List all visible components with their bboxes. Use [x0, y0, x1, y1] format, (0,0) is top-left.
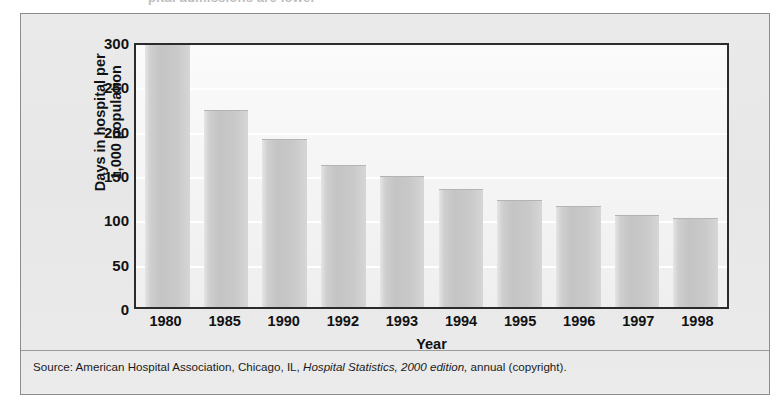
cutoff-title-strip: pital admissions are lower: [0, 0, 782, 12]
source-italic-title: Hospital Statistics,: [303, 360, 398, 373]
bar-slot-1998: [666, 45, 725, 307]
cutoff-title-text: pital admissions are lower: [148, 0, 316, 5]
bar-slot-1994: [432, 45, 491, 307]
bar-slot-1997: [608, 45, 667, 307]
source-divider: [21, 350, 769, 351]
bar-slot-1980: [138, 45, 197, 307]
y-axis-tick-labels: 050100150200250300: [83, 30, 129, 314]
bar-1993: [380, 176, 425, 307]
bar-1995: [497, 200, 542, 307]
plot-area: [134, 43, 729, 309]
bar-slot-1990: [255, 45, 314, 307]
bar-1994: [439, 189, 484, 307]
x-tick-1998: 1998: [668, 313, 727, 329]
bar-slot-1996: [549, 45, 608, 307]
bar-1980: [145, 44, 190, 307]
x-tick-1997: 1997: [609, 313, 668, 329]
x-tick-1992: 1992: [313, 313, 372, 329]
bar-1996: [556, 206, 601, 307]
bar-1998: [673, 218, 718, 307]
y-tick-50: 50: [112, 256, 129, 273]
bar-1990: [262, 139, 307, 307]
source-suffix: annual (copyright).: [467, 360, 566, 373]
x-tick-1996: 1996: [550, 313, 609, 329]
x-tick-1990: 1990: [254, 313, 313, 329]
source-italic-edition: 2000 edition,: [398, 360, 468, 373]
x-tick-1994: 1994: [431, 313, 490, 329]
x-tick-1995: 1995: [491, 313, 550, 329]
y-tick-100: 100: [104, 212, 129, 229]
x-tick-1985: 1985: [195, 313, 254, 329]
figure-frame: Days in hospital per 1,000 population 05…: [20, 13, 770, 395]
bar-series: [136, 45, 727, 307]
bar-1997: [615, 215, 660, 307]
bar-slot-1985: [197, 45, 256, 307]
bar-1992: [321, 165, 366, 307]
figure-background: Days in hospital per 1,000 population 05…: [21, 14, 769, 394]
source-note: Source: American Hospital Association, C…: [33, 359, 759, 374]
bar-1985: [204, 110, 249, 307]
y-tick-300: 300: [104, 35, 129, 52]
bar-slot-1995: [490, 45, 549, 307]
y-tick-0: 0: [121, 301, 129, 318]
source-prefix: Source: American Hospital Association, C…: [33, 360, 303, 373]
y-tick-250: 250: [104, 79, 129, 96]
bar-slot-1992: [314, 45, 373, 307]
y-tick-200: 200: [104, 123, 129, 140]
x-axis-tick-labels: 1980198519901992199319941995199619971998: [134, 313, 729, 329]
x-tick-1980: 1980: [136, 313, 195, 329]
y-tick-150: 150: [104, 168, 129, 185]
x-tick-1993: 1993: [372, 313, 431, 329]
bar-slot-1993: [373, 45, 432, 307]
